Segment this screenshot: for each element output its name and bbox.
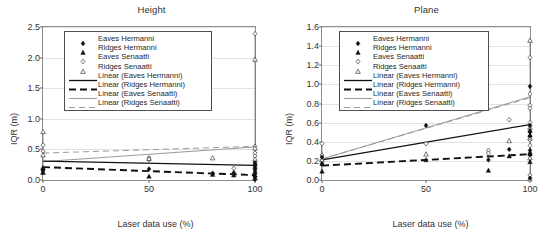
x-axis-label-height: Laser data use (%) — [0, 219, 293, 229]
legend-entry-label: Linear (Eaves Hermanni) — [373, 71, 457, 80]
legend-entry-label: Linear (Ridges Hermanni) — [98, 80, 185, 89]
x-tick-mark — [149, 180, 150, 183]
x-tick-label: 100 — [522, 184, 537, 194]
open-diamond-icon — [343, 52, 373, 61]
legend-entry: Linear (Eaves Senaatti) — [68, 89, 207, 98]
data-point-marker — [528, 38, 533, 42]
panel-plane: Plane IQR (m) 0.00.20.40.60.81.01.21.41.… — [275, 0, 550, 231]
legend-entry: Linear (Ridges Hermanni) — [68, 80, 207, 89]
legend-entry-label: Linear (Eaves Senaatti) — [373, 89, 452, 98]
trendline — [43, 146, 255, 153]
legend-entry-label: Eaves Senaatti — [98, 52, 149, 61]
legend-entry: Ridges Hermanni — [343, 43, 484, 52]
filled-triangle-icon — [343, 43, 373, 52]
data-point-marker — [507, 138, 512, 142]
legend-entry-label: Eaves Hermanni — [98, 34, 154, 43]
legend-entry: Linear (Ridges Senaatti) — [343, 98, 484, 107]
legend-entry: Linear (Ridges Hermanni) — [343, 80, 484, 89]
open-triangle-icon — [68, 62, 98, 71]
x-tick-label: 50 — [421, 184, 431, 194]
data-point-marker — [147, 174, 152, 178]
solid-gray-icon — [343, 89, 373, 98]
open-diamond-icon — [68, 52, 98, 61]
solid-gray-icon — [68, 89, 98, 98]
legend-entry-label: Linear (Eaves Hermanni) — [98, 71, 182, 80]
data-point-marker — [320, 169, 325, 173]
y-tick-label: 1.0 — [27, 114, 40, 124]
y-tick-label: 0.0 — [27, 175, 40, 185]
legend-entry: Linear (Eaves Hermanni) — [343, 71, 484, 80]
y-tick-label: 2.5 — [27, 22, 40, 32]
legend-entry-label: Linear (Ridges Senaatti) — [98, 98, 180, 107]
legend-entry-label: Linear (Ridges Hermanni) — [373, 80, 460, 89]
dashed-black-icon — [68, 80, 98, 89]
legend-entry: Eaves Hermanni — [68, 34, 207, 43]
y-tick-label: 1.0 — [306, 79, 319, 89]
dashed-black-icon — [343, 80, 373, 89]
dashed-gray-icon — [343, 98, 373, 107]
filled-diamond-icon — [343, 34, 373, 43]
y-tick-label: 0.0 — [306, 175, 319, 185]
x-tick-mark — [43, 180, 44, 183]
legend-entry-label: Linear (Ridges Senaatti) — [373, 98, 455, 107]
data-point-marker — [528, 92, 532, 97]
data-point-marker — [253, 57, 258, 61]
legend-entry: Linear (Eaves Hermanni) — [68, 71, 207, 80]
data-point-marker — [486, 168, 491, 172]
chart-legend: Eaves HermanniRidges HermanniEaves Senaa… — [64, 31, 212, 111]
y-tick-label: 1.6 — [306, 22, 319, 32]
data-point-marker — [528, 143, 532, 148]
figure-two-panel-scatter: Height IQR (m) 0.00.51.01.52.02.5050100 … — [0, 0, 550, 231]
legend-entry-label: Ridges Senaatti — [373, 62, 427, 71]
x-tick-label: 0 — [40, 184, 45, 194]
data-point-marker — [253, 31, 257, 36]
legend-entry: Eaves Senaatti — [343, 52, 484, 61]
y-tick-label: 0.4 — [306, 137, 319, 147]
solid-black-icon — [68, 71, 98, 80]
legend-entry: Linear (Ridges Senaatti) — [68, 98, 207, 107]
data-point-marker — [507, 117, 511, 122]
x-tick-mark — [426, 180, 427, 183]
y-tick-label: 0.2 — [306, 156, 319, 166]
data-point-marker — [486, 158, 490, 163]
data-point-marker — [507, 147, 511, 152]
open-triangle-icon — [343, 62, 373, 71]
filled-triangle-icon — [68, 43, 98, 52]
dashed-gray-icon — [68, 98, 98, 107]
legend-entry: Linear (Eaves Senaatti) — [343, 89, 484, 98]
y-tick-label: 1.4 — [306, 41, 319, 51]
y-tick-label: 0.8 — [306, 99, 319, 109]
filled-diamond-icon — [68, 34, 98, 43]
legend-entry-label: Eaves Senaatti — [373, 52, 424, 61]
solid-black-icon — [343, 71, 373, 80]
y-tick-label: 0.5 — [27, 144, 40, 154]
x-axis-label-plane: Laser data use (%) — [275, 219, 550, 229]
y-axis-label-plane: IQR (m) — [284, 113, 294, 145]
legend-entry: Ridges Senaatti — [68, 62, 207, 71]
y-tick-label: 2.0 — [27, 53, 40, 63]
legend-entry: Eaves Hermanni — [343, 34, 484, 43]
legend-entry: Ridges Senaatti — [343, 62, 484, 71]
data-point-marker — [210, 156, 215, 160]
legend-entry-label: Ridges Hermanni — [373, 43, 432, 52]
y-tick-label: 1.5 — [27, 83, 40, 93]
x-tick-label: 0 — [319, 184, 324, 194]
legend-entry-label: Ridges Senaatti — [98, 62, 152, 71]
y-tick-label: 1.2 — [306, 60, 319, 70]
data-point-marker — [528, 84, 532, 89]
y-axis-label-height: IQR (m) — [9, 113, 19, 145]
x-tick-label: 50 — [144, 184, 154, 194]
y-tick-label: 0.6 — [306, 118, 319, 128]
legend-entry-label: Linear (Eaves Senaatti) — [98, 89, 177, 98]
data-point-marker — [424, 152, 429, 156]
data-point-marker — [41, 143, 45, 148]
legend-entry: Ridges Hermanni — [68, 43, 207, 52]
data-point-marker — [528, 55, 532, 60]
panel-height: Height IQR (m) 0.00.51.01.52.02.5050100 … — [0, 0, 275, 231]
data-point-marker — [41, 129, 46, 133]
legend-entry-label: Eaves Hermanni — [373, 34, 429, 43]
legend-entry-label: Ridges Hermanni — [98, 43, 157, 52]
chart-legend: Eaves HermanniRidges HermanniEaves Senaa… — [339, 31, 489, 111]
x-tick-mark — [322, 180, 323, 183]
chart-title-height: Height — [0, 4, 289, 15]
